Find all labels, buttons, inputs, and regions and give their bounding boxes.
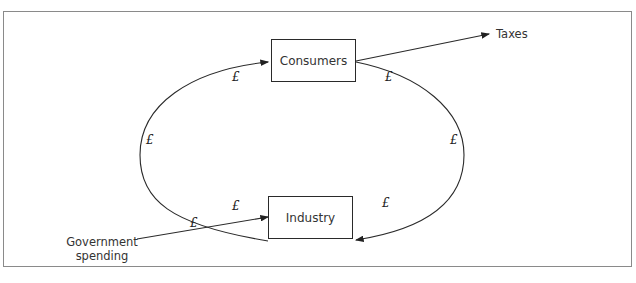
government-spending-arrow xyxy=(137,217,268,239)
pound-label-left-middle: £ xyxy=(146,133,154,147)
pound-label-right-top: £ xyxy=(385,70,393,84)
consumers-label: Consumers xyxy=(280,54,347,68)
pound-label-left-bottom: £ xyxy=(232,199,240,213)
government-spending-label: Government spending xyxy=(66,235,138,263)
left-flow-arc xyxy=(140,62,268,241)
pound-label-government: £ xyxy=(190,216,198,230)
taxes-arrow xyxy=(356,34,489,61)
industry-node: Industry xyxy=(268,196,353,239)
industry-label: Industry xyxy=(286,211,335,225)
pound-label-right-middle: £ xyxy=(450,133,458,147)
consumers-node: Consumers xyxy=(271,39,356,82)
taxes-label: Taxes xyxy=(496,27,528,41)
pound-label-left-top: £ xyxy=(232,70,240,84)
pound-label-right-bottom: £ xyxy=(382,196,390,210)
right-flow-arc xyxy=(356,62,464,240)
